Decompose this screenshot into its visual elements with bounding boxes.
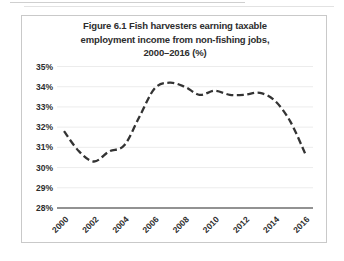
y-axis-label: 31% xyxy=(36,142,53,152)
x-axis-label: 2004 xyxy=(110,214,131,235)
x-axis-label: 2008 xyxy=(171,214,192,235)
x-axis-label: 2002 xyxy=(80,214,101,235)
y-axis-label: 28% xyxy=(36,203,53,213)
y-axis-label: 30% xyxy=(36,163,53,173)
x-axis-label: 2006 xyxy=(140,214,161,235)
x-axis-label: 2012 xyxy=(231,214,252,235)
page: Figure 6.1 Fish harvesters earning taxab… xyxy=(0,0,344,261)
line-chart-plot: 35%34%33%32%31%30%29%28%2000200220042006… xyxy=(0,0,344,261)
y-axis-label: 35% xyxy=(36,62,53,72)
x-axis-label: 2010 xyxy=(201,214,222,235)
y-axis-label: 34% xyxy=(36,82,53,92)
x-axis-label: 2014 xyxy=(261,214,282,235)
data-series-line xyxy=(64,83,305,162)
y-axis-label: 33% xyxy=(36,102,53,112)
x-axis-label: 2016 xyxy=(291,214,312,235)
y-axis-label: 29% xyxy=(36,183,53,193)
y-axis-label: 32% xyxy=(36,122,53,132)
x-axis-label: 2000 xyxy=(50,214,71,235)
